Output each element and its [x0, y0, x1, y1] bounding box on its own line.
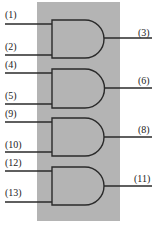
pin-label-9: (9)	[5, 109, 17, 119]
pin-label-1: (1)	[5, 10, 17, 20]
pin-label-10: (10)	[5, 140, 22, 150]
pin-label-8: (8)	[138, 125, 150, 135]
pin-label-5: (5)	[5, 91, 17, 101]
pin-label-12: (12)	[5, 158, 22, 168]
circuit-canvas	[0, 0, 158, 225]
and-gate-diagram: (1) (2) (3) (4) (5) (6) (9) (10) (8) (12…	[0, 0, 158, 225]
pin-label-13: (13)	[5, 188, 22, 198]
pin-label-11: (11)	[134, 174, 150, 184]
pin-label-4: (4)	[5, 60, 17, 70]
ic-package-background	[37, 2, 120, 221]
pin-label-2: (2)	[5, 42, 17, 52]
pin-label-6: (6)	[138, 76, 150, 86]
pin-label-3: (3)	[138, 28, 150, 38]
